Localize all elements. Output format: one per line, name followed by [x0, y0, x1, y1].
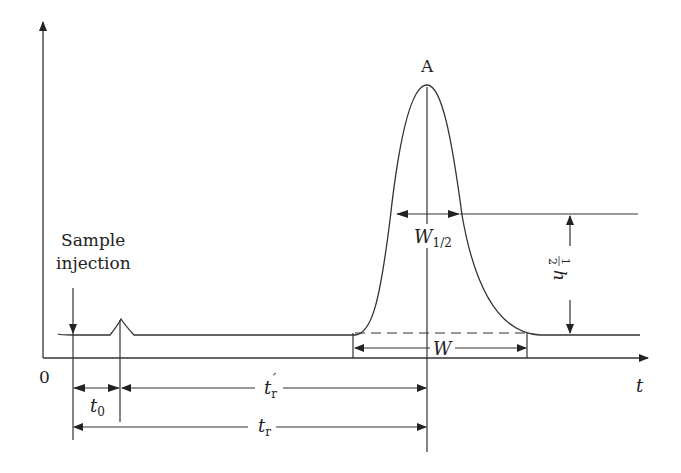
- adjusted-retention-label: tr′: [264, 371, 277, 401]
- chromatogram-trace: [58, 85, 640, 335]
- dead-time-label-text: t0: [90, 395, 105, 419]
- half-height-label: 1 2 h: [546, 256, 572, 281]
- injection-label-line2: injection: [56, 253, 131, 273]
- base-width-label: W: [433, 338, 453, 359]
- injection-label-line1: Sample: [61, 230, 125, 250]
- svg-text:h: h: [550, 270, 570, 281]
- peak-label: A: [420, 56, 434, 76]
- svg-text:2: 2: [546, 258, 559, 265]
- chromatogram-diagram: 0 t Sample injection A W1/2 1 2 h W 0 t0…: [0, 0, 681, 473]
- svg-text:1: 1: [559, 258, 572, 265]
- half-width-label: W1/2: [414, 226, 452, 250]
- retention-label: tr: [258, 415, 271, 439]
- origin-label: 0: [39, 367, 50, 387]
- x-axis-label: t: [636, 375, 644, 396]
